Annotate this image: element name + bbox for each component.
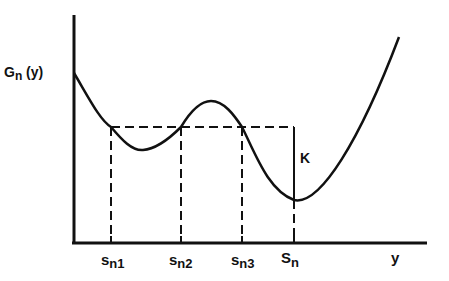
- tick-label-sn1: sn1: [101, 251, 125, 271]
- diagram-canvas: Gn (y) K sn1 sn2 sn3 Sn y: [0, 0, 449, 281]
- x-axis-label: y: [391, 249, 400, 266]
- tick-label-sn: Sn: [281, 249, 299, 270]
- function-curve: [74, 37, 399, 200]
- k-label: K: [300, 150, 310, 166]
- y-axis-label: Gn (y): [4, 64, 43, 83]
- tick-label-sn3: sn3: [231, 251, 255, 271]
- tick-label-sn2: sn2: [169, 251, 193, 271]
